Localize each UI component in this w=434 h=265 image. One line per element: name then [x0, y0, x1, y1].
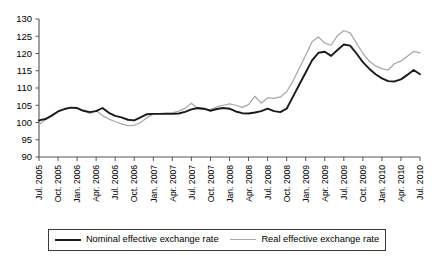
x-tick-label: Apr. 2007	[168, 165, 178, 202]
x-tick-label: Jan. 2006	[72, 165, 82, 203]
x-tick-label: Jul. 2006	[110, 165, 120, 200]
y-tick-label: 125	[16, 31, 32, 42]
x-tick-label: Jan. 2010	[377, 165, 387, 203]
exchange-rate-line-chart: 9095100105110115120125130 Jul. 2005Oct. …	[0, 0, 434, 265]
legend-label-real: Real effective exchange rate	[261, 235, 379, 244]
chart-plot-area: 9095100105110115120125130 Jul. 2005Oct. …	[0, 0, 434, 265]
legend-swatch-nominal-icon	[55, 239, 81, 241]
x-tick-label: Apr. 2008	[244, 165, 254, 202]
y-tick-label: 90	[21, 151, 32, 162]
y-tick-label: 130	[16, 13, 32, 24]
x-tick-label: Oct. 2006	[129, 165, 139, 202]
chart-axes	[39, 19, 420, 157]
x-axis-labels: Jul. 2005Oct. 2005Jan. 2006Apr. 2006Jul.…	[34, 165, 425, 203]
x-tick-label: Jul. 2009	[339, 165, 349, 200]
y-tick-label: 120	[16, 48, 32, 59]
y-tick-label: 110	[17, 82, 32, 93]
legend-item-nominal: Nominal effective exchange rate	[55, 235, 219, 244]
y-axis-ticks: 9095100105110115120125130	[16, 13, 39, 162]
y-tick-label: 100	[16, 117, 32, 128]
x-tick-label: Jan. 2008	[225, 165, 235, 203]
y-tick-label: 115	[17, 65, 32, 76]
x-tick-label: Apr. 2006	[91, 165, 101, 202]
y-tick-label: 95	[21, 134, 32, 145]
legend-swatch-real-icon	[230, 239, 256, 240]
legend-item-real: Real effective exchange rate	[230, 235, 379, 244]
x-tick-label: Jul. 2008	[263, 165, 273, 200]
x-tick-label: Oct. 2007	[206, 165, 216, 202]
x-tick-label: Jul. 2005	[34, 165, 44, 200]
x-axis-ticks	[39, 157, 420, 161]
x-tick-label: Jul. 2010	[415, 165, 425, 200]
x-tick-label: Jan. 2007	[149, 165, 159, 203]
y-tick-label: 105	[16, 100, 32, 111]
x-tick-label: Oct. 2009	[358, 165, 368, 202]
x-tick-label: Oct. 2008	[282, 165, 292, 202]
x-tick-label: Apr. 2009	[320, 165, 330, 202]
x-tick-label: Apr. 2010	[396, 165, 406, 202]
legend-label-nominal: Nominal effective exchange rate	[86, 235, 219, 244]
chart-legend: Nominal effective exchange rate Real eff…	[48, 229, 386, 251]
x-tick-label: Jan. 2009	[301, 165, 311, 203]
x-tick-label: Jul. 2007	[187, 165, 197, 200]
x-tick-label: Oct. 2005	[53, 165, 63, 202]
series-line-nominal-effective-exchange-rate	[39, 45, 420, 121]
